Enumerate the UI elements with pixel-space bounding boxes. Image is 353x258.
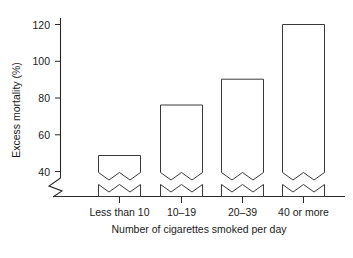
x-tick-label-less-than-10: Less than 10: [89, 206, 149, 218]
bar-base-stub-20-39: [222, 185, 264, 197]
bar-base-stub-10-19: [161, 185, 203, 197]
bar-less-than-10: [99, 156, 141, 181]
x-tick-label-20-39: 20–39: [228, 206, 257, 218]
bar-group-10-19: [161, 105, 203, 203]
y-tick-label-80: 80: [38, 92, 50, 104]
bar-group-less-than-10: [99, 156, 141, 204]
y-tick-label-100: 100: [32, 55, 50, 67]
x-tick-label-40-or-more: 40 or more: [278, 206, 329, 218]
bar-base-stub-40-or-more: [283, 185, 325, 197]
bar-40-or-more: [283, 25, 325, 181]
bar-20-39: [222, 79, 264, 180]
x-tick-label-10-19: 10–19: [167, 206, 196, 218]
bar-10-19: [161, 105, 203, 180]
y-tick-label-120: 120: [32, 19, 50, 31]
bar-group-40-or-more: [283, 25, 325, 204]
chart-canvas: 120 100 80 60 40 Excess mortality (%): [0, 0, 353, 258]
y-tick-label-40: 40: [38, 166, 50, 178]
y-axis-break-icon: [49, 178, 62, 197]
x-axis-title: Number of cigarettes smoked per day: [111, 223, 287, 235]
bar-chart: 120 100 80 60 40 Excess mortality (%): [0, 0, 353, 258]
y-tick-label-60: 60: [38, 129, 50, 141]
bar-base-stub-less-than-10: [99, 185, 141, 197]
y-tick-marks: [55, 25, 61, 172]
bar-group-20-39: [222, 79, 264, 203]
y-axis-title: Excess mortality (%): [10, 62, 22, 158]
